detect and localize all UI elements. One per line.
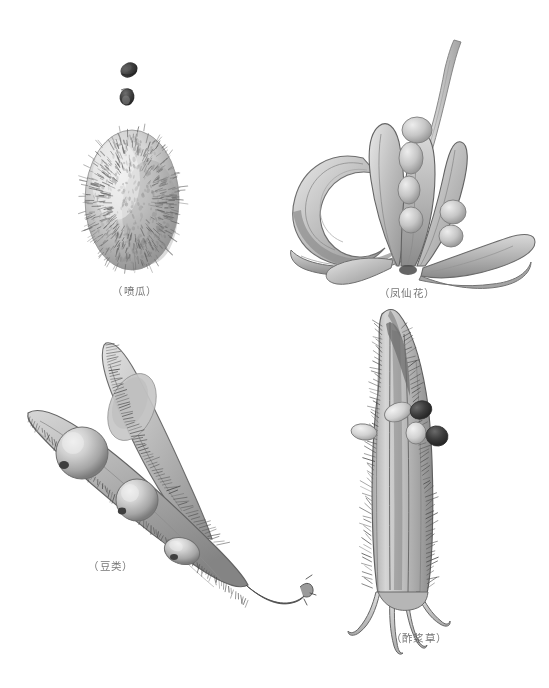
oxalis-capsule-icon [359,310,439,595]
hairy-ovoid-fruit-icon [79,124,188,273]
figure-legume: （豆类） [10,325,330,645]
figure-impatiens: （凤仙花） [245,30,549,305]
illustration-plate: （喷瓜） [0,0,549,688]
figure-squirting-cucumber: （喷瓜） [0,0,240,300]
pod-twisted-tip-icon [246,575,316,605]
squirting-cucumber-artwork [0,0,240,300]
impatiens-artwork [245,30,549,305]
bean-seed-2 [116,479,158,521]
caption-squirting-cucumber: （喷瓜） [88,283,182,298]
figure-oxalis: （酢浆草） [320,300,549,688]
bean-seed-1 [56,427,108,479]
seed-lower-icon [118,87,136,107]
caption-legume: （豆类） [74,558,148,573]
legume-artwork [10,325,330,645]
caption-impatiens: （凤仙花） [366,285,448,300]
caption-oxalis: （酢浆草） [377,630,461,645]
seed-upper-icon [118,59,141,80]
